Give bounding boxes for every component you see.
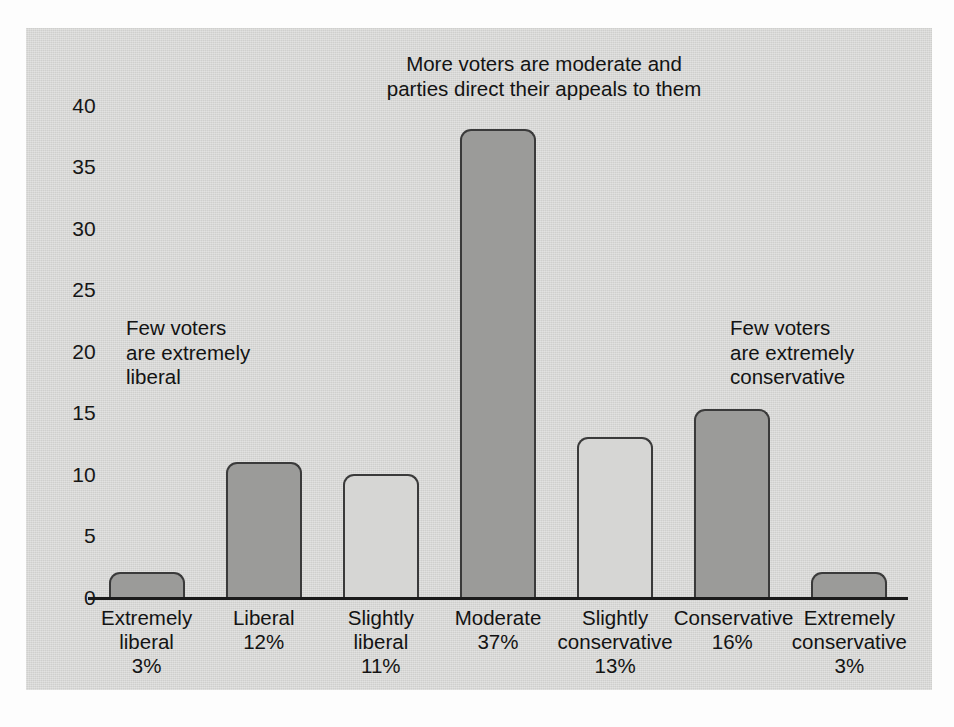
x-label-conservative: Conservative 16% [674, 606, 791, 654]
plot-area: 40 35 30 25 20 15 10 5 0 Extremely liber… [26, 28, 932, 690]
bar-slightly-conservative [577, 437, 653, 597]
bar-extremely-conservative [811, 572, 887, 597]
x-label-extremely-conservative: Extremely conservative 3% [791, 606, 908, 678]
y-tick-label-15: 15 [36, 402, 96, 423]
x-label-extremely-liberal: Extremely liberal 3% [88, 606, 205, 678]
bar-moderate [460, 129, 536, 597]
x-label-liberal: Liberal 12% [205, 606, 322, 654]
y-tick-label-25: 25 [36, 279, 96, 300]
chart-panel: 40 35 30 25 20 15 10 5 0 Extremely liber… [26, 28, 932, 690]
figure-canvas: 40 35 30 25 20 15 10 5 0 Extremely liber… [0, 0, 954, 727]
y-tick-label-35: 35 [36, 156, 96, 177]
bar-extremely-liberal [109, 572, 185, 597]
x-axis-line [88, 597, 908, 600]
bar-slightly-liberal [343, 474, 419, 597]
bar-conservative [694, 409, 770, 597]
annotation-few-voters-extremely-conservative: Few voters are extremely conservative [730, 316, 854, 390]
y-tick-label-30: 30 [36, 217, 96, 238]
y-tick-label-10: 10 [36, 463, 96, 484]
x-label-slightly-conservative: Slightly conservative 13% [557, 606, 674, 678]
y-tick-label-5: 5 [36, 525, 96, 546]
annotation-more-voters-are-moderate: More voters are moderate and parties dir… [344, 52, 744, 101]
y-tick-label-20: 20 [36, 340, 96, 361]
bar-liberal [226, 462, 302, 597]
y-tick-label-0: 0 [36, 587, 96, 608]
x-label-moderate: Moderate 37% [439, 606, 556, 654]
x-label-slightly-liberal: Slightly liberal 11% [322, 606, 439, 678]
annotation-few-voters-extremely-liberal: Few voters are extremely liberal [126, 316, 250, 390]
y-tick-label-40: 40 [36, 94, 96, 115]
